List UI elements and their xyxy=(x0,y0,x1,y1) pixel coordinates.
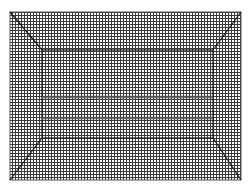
mesh-figure xyxy=(0,0,251,194)
